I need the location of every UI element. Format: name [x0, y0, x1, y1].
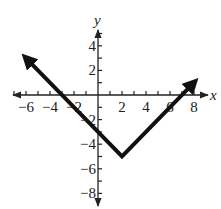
graph-canvas: −6−4−22468 42−2−4−6−8 x y: [0, 0, 221, 209]
y-axis-label: y: [92, 12, 101, 28]
x-axis-label: x: [209, 87, 217, 103]
x-tick-label: 4: [142, 99, 150, 115]
y-tick-label: −8: [80, 185, 96, 201]
y-tick-label: 4: [89, 38, 97, 54]
x-tick-label: −6: [18, 99, 34, 115]
x-tick-label: −4: [42, 99, 58, 115]
y-tick-label: −4: [80, 136, 96, 152]
x-tick-label: 8: [190, 99, 198, 115]
x-tick-label: 2: [118, 99, 126, 115]
y-tick-label: −6: [80, 161, 96, 177]
y-tick-label: 2: [89, 62, 97, 78]
